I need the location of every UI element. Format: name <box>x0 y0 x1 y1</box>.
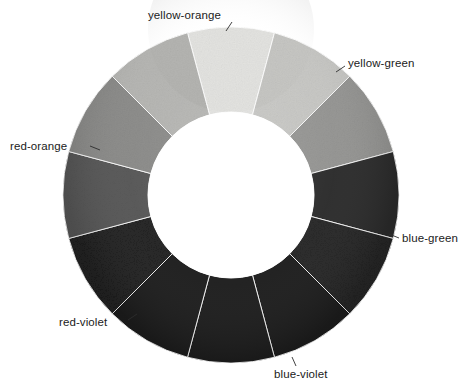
wheel-label-red-violet: red-violet <box>59 317 107 329</box>
wheel-label-yellow-orange: yellow-orange <box>148 10 221 22</box>
color-wheel-figure: yellow-orangeyellow-greenred-orangeblue-… <box>0 0 463 387</box>
wheel-label-blue-green: blue-green <box>402 233 458 245</box>
wheel-center-hole <box>148 112 314 278</box>
wheel-label-blue-violet: blue-violet <box>274 369 328 381</box>
wheel-label-yellow-green: yellow-green <box>348 58 414 70</box>
blue-violet-leader <box>292 357 296 366</box>
wheel-label-red-orange: red-orange <box>10 141 67 153</box>
